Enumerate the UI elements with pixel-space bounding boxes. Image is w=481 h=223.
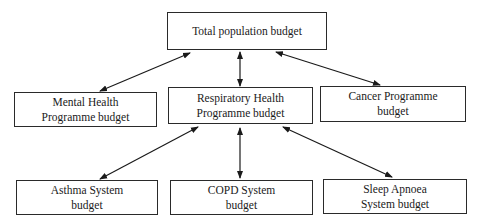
node-label-line2: Programme budget	[197, 106, 285, 121]
node-label-line1: Mental Health	[52, 95, 118, 110]
node-label-line1: Sleep Apnoea	[363, 182, 427, 197]
node-label-line2: budget	[377, 104, 408, 119]
arrow-respiratory-asthma	[100, 127, 198, 179]
node-respiratory-health-programme-budget: Respiratory Health Programme budget	[168, 87, 313, 124]
node-label-line2: budget	[71, 198, 102, 213]
arrow-respiratory-sleep	[283, 127, 392, 177]
node-label-line1: Cancer Programme	[348, 89, 437, 104]
node-copd-system-budget: COPD System budget	[170, 180, 313, 215]
node-label-line1: Respiratory Health	[197, 91, 284, 106]
node-label-line2: Programme budget	[42, 110, 130, 125]
node-label-line2: budget	[226, 198, 257, 213]
node-mental-health-programme-budget: Mental Health Programme budget	[14, 92, 157, 127]
arrow-total-cancer	[276, 52, 380, 85]
node-cancer-programme-budget: Cancer Programme budget	[320, 86, 466, 122]
node-label-line1: Asthma System	[51, 183, 124, 198]
node-label-line2: System budget	[361, 197, 429, 212]
node-sleep-apnoea-system-budget: Sleep Apnoea System budget	[323, 179, 467, 214]
arrow-total-mental	[100, 53, 190, 91]
node-asthma-system-budget: Asthma System budget	[16, 180, 158, 215]
node-label-line1: COPD System	[208, 183, 275, 198]
node-total-population-budget: Total population budget	[167, 12, 327, 50]
node-label: Total population budget	[192, 24, 302, 39]
